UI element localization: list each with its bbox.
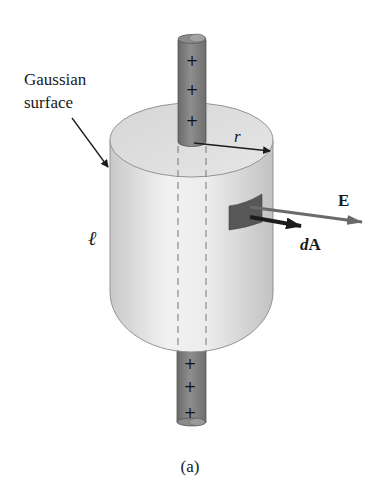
- charge-plus: +: [186, 112, 199, 130]
- radius-label: r: [234, 127, 241, 146]
- charge-plus: +: [186, 52, 199, 70]
- gaussian-cylinder-diagram: + + + + + + r Gaussian surface ℓ E dA (a…: [0, 0, 385, 493]
- charge-plus: +: [186, 81, 199, 99]
- charge-plus: +: [184, 355, 197, 373]
- charge-plus: +: [184, 404, 197, 422]
- bottom-charges: + + +: [184, 355, 197, 422]
- top-charges: + + +: [186, 52, 199, 130]
- gaussian-surface-label-line2: surface: [24, 93, 73, 112]
- length-label: ℓ: [88, 227, 97, 249]
- field-label: E: [338, 191, 349, 210]
- gaussian-pointer-arrow: [72, 118, 108, 167]
- figure-caption: (a): [181, 457, 200, 476]
- charge-plus: +: [184, 378, 197, 396]
- area-vector-label: dA: [300, 235, 322, 254]
- gaussian-surface-label-line1: Gaussian: [24, 70, 87, 89]
- area-vector-symbol: A: [309, 235, 322, 254]
